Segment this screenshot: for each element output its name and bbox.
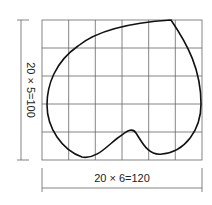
grid-curve-diagram: 20 × 5=100 20 × 6=120 bbox=[0, 0, 212, 205]
horizontal-dimension-label: 20 × 6=120 bbox=[94, 172, 150, 184]
grid bbox=[42, 20, 202, 160]
vertical-dimension-label: 20 × 5=100 bbox=[25, 62, 37, 118]
heart-curve bbox=[47, 20, 201, 157]
